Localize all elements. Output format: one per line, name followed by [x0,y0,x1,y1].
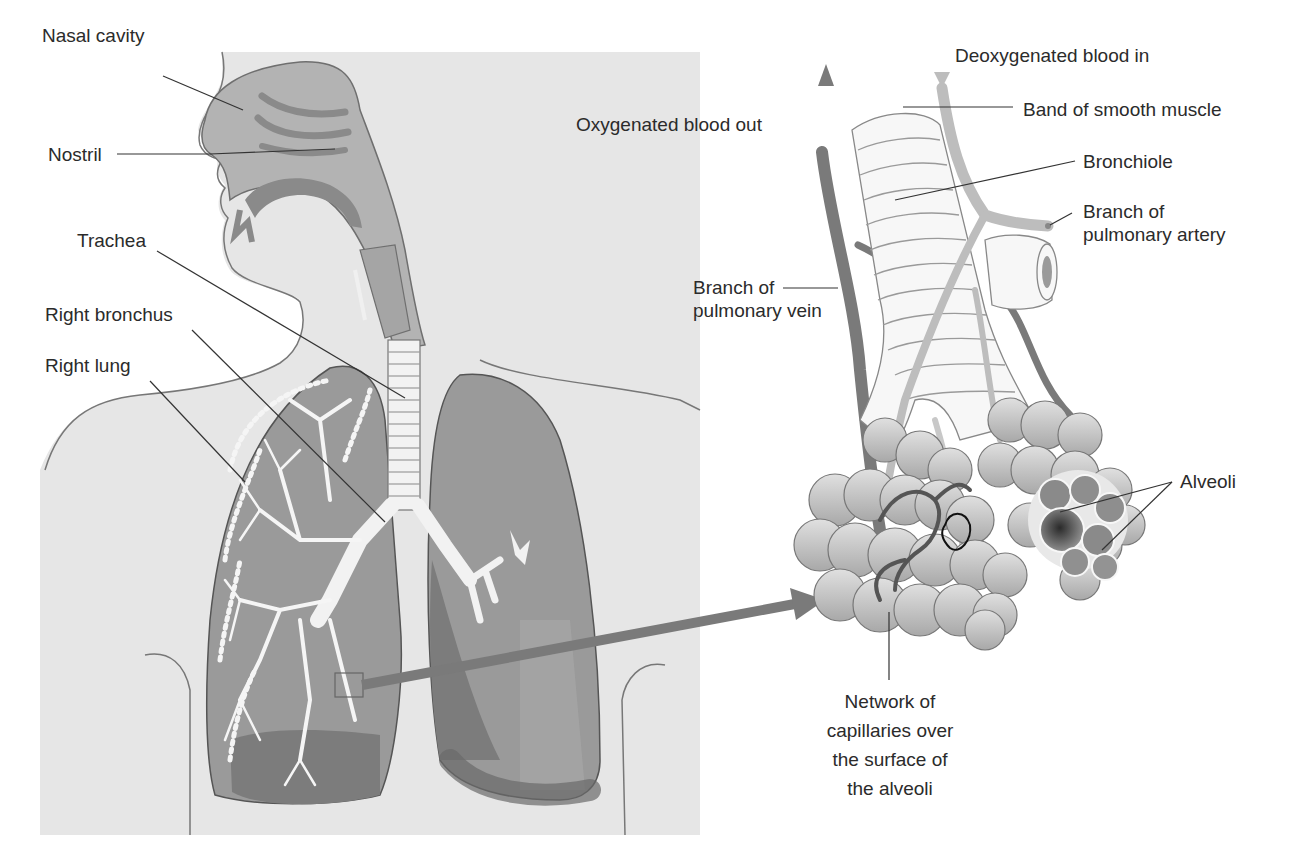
label-line: pulmonary artery [1083,223,1226,246]
label-line: Network of [815,687,965,716]
alveoli-cutaway [1028,470,1128,580]
label-line: the surface of [815,745,965,774]
label-trachea: Trachea [77,229,146,252]
bronchiole-detail [794,28,1145,650]
label-line: capillaries over [815,716,965,745]
label-right-bronchus: Right bronchus [45,303,173,326]
label-band-of-smooth-muscle: Band of smooth muscle [1023,98,1222,121]
label-bronchiole: Bronchiole [1083,150,1173,173]
label-oxygenated-blood-out: Oxygenated blood out [576,113,762,136]
label-line: the alveoli [815,774,965,803]
label-deoxygenated-blood-in: Deoxygenated blood in [955,44,1149,67]
label-nostril: Nostril [48,143,102,166]
label-line: pulmonary vein [693,299,822,322]
label-nasal-cavity: Nasal cavity [42,24,144,47]
label-line: Branch of [693,276,822,299]
label-branch-of-pulmonary-artery: Branch of pulmonary artery [1083,200,1226,246]
label-capillary-network: Network of capillaries over the surface … [815,687,965,803]
respiratory-system-diagram: Nasal cavity Nostril Trachea Right bronc… [0,0,1297,849]
label-branch-of-pulmonary-vein: Branch of pulmonary vein [693,276,822,322]
label-line: Branch of [1083,200,1226,223]
label-alveoli: Alveoli [1180,470,1236,493]
label-right-lung: Right lung [45,354,131,377]
